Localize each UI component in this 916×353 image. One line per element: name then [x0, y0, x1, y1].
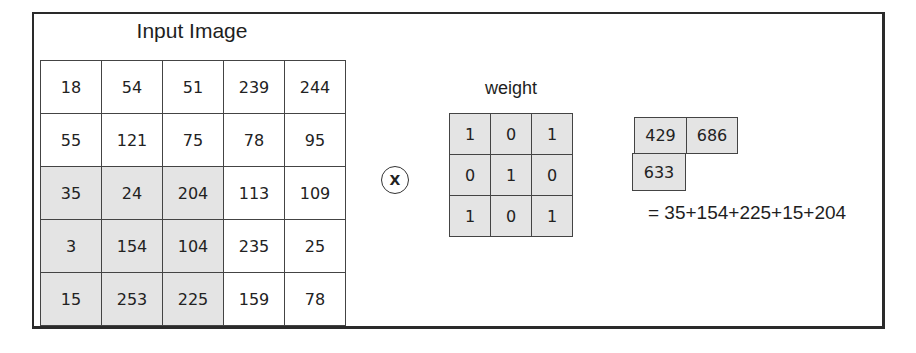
input-cell-r3c0-highlighted: 3 — [41, 220, 102, 273]
input-cell-r2c4: 109 — [285, 167, 346, 220]
input-cell-r1c2: 75 — [163, 114, 224, 167]
weight-cell-r2c1: 0 — [491, 196, 532, 237]
input-image-title: Input Image — [40, 19, 344, 43]
input-cell-r0c0: 18 — [41, 61, 102, 114]
input-cell-r4c1-highlighted: 253 — [102, 273, 163, 326]
input-image-grid: 18 54 51 239 244 55 121 75 78 95 35 24 2… — [40, 60, 346, 326]
weight-label: weight — [449, 78, 573, 99]
input-cell-r3c2-highlighted: 104 — [163, 220, 224, 273]
input-cell-r1c0: 55 — [41, 114, 102, 167]
output-cell-0: 429 — [634, 117, 687, 154]
input-cell-r0c1: 54 — [102, 61, 163, 114]
weight-cell-r0c1: 0 — [491, 114, 532, 155]
weight-cell-r0c0: 1 — [450, 114, 491, 155]
input-cell-r4c4: 78 — [285, 273, 346, 326]
input-cell-r0c4: 244 — [285, 61, 346, 114]
input-cell-r1c1: 121 — [102, 114, 163, 167]
input-cell-r0c2: 51 — [163, 61, 224, 114]
input-cell-r2c1-highlighted: 24 — [102, 167, 163, 220]
weight-kernel-grid: 1 0 1 0 1 0 1 0 1 — [449, 113, 573, 237]
weight-cell-r0c2: 1 — [532, 114, 573, 155]
output-equation: = 35+154+225+15+204 — [648, 202, 846, 224]
weight-cell-r1c2: 0 — [532, 155, 573, 196]
input-cell-r1c3: 78 — [224, 114, 285, 167]
input-cell-r2c0-highlighted: 35 — [41, 167, 102, 220]
output-cell-1: 686 — [686, 117, 738, 154]
input-cell-r0c3: 239 — [224, 61, 285, 114]
input-cell-r3c4: 25 — [285, 220, 346, 273]
input-cell-r2c3: 113 — [224, 167, 285, 220]
weight-cell-r1c0: 0 — [450, 155, 491, 196]
weight-cell-r1c1: 1 — [491, 155, 532, 196]
multiply-circle-icon: X — [381, 166, 409, 194]
input-cell-r1c4: 95 — [285, 114, 346, 167]
input-cell-r4c0-highlighted: 15 — [41, 273, 102, 326]
weight-cell-r2c2: 1 — [532, 196, 573, 237]
input-cell-r4c3: 159 — [224, 273, 285, 326]
input-cell-r3c3: 235 — [224, 220, 285, 273]
input-cell-r2c2-highlighted: 204 — [163, 167, 224, 220]
output-cell-2: 633 — [632, 153, 686, 191]
input-cell-r4c2-highlighted: 225 — [163, 273, 224, 326]
input-cell-r3c1-highlighted: 154 — [102, 220, 163, 273]
weight-cell-r2c0: 1 — [450, 196, 491, 237]
operator-symbol: X — [390, 172, 401, 188]
